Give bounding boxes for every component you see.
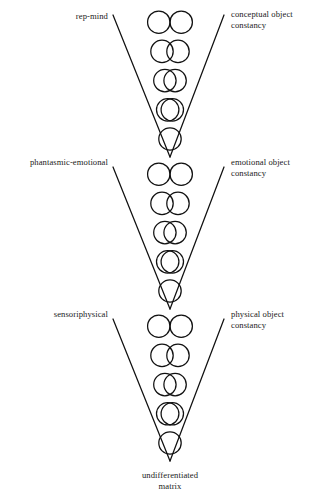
- label-physical-object-constancy: physical object constancy: [231, 309, 326, 330]
- circle-conceptual-row4-right: [161, 99, 183, 121]
- funnel-group-emotional: [113, 163, 224, 309]
- circle-conceptual-row3-right: [164, 69, 186, 91]
- label-rep-mind: rep-mind: [18, 11, 108, 22]
- circle-emotional-row4-left: [157, 251, 179, 273]
- circle-emotional-row1-left: [148, 163, 170, 185]
- circle-physical-row3-left: [154, 373, 176, 395]
- circle-conceptual-row3-left: [154, 69, 176, 91]
- circle-emotional-row4-right: [161, 251, 183, 273]
- label-sensoriphysical: sensoriphysical: [18, 309, 108, 320]
- circle-emotional-row1-right: [170, 163, 192, 185]
- funnel-line-right-emotional: [170, 167, 224, 309]
- funnel-group-physical: [113, 315, 224, 461]
- label-conceptual-object-constancy: conceptual object constancy: [231, 9, 326, 30]
- circle-conceptual-row1-right: [170, 11, 192, 33]
- circle-physical-row1-left: [148, 315, 170, 337]
- label-undifferentiated-matrix: undifferentiated matrix: [108, 470, 232, 491]
- circle-emotional-row2-right: [167, 192, 189, 214]
- funnel-group-conceptual: [113, 11, 224, 157]
- circle-physical-row2-right: [167, 344, 189, 366]
- circle-conceptual-row4-left: [157, 99, 179, 121]
- circle-physical-row1-right: [170, 315, 192, 337]
- funnel-line-left-conceptual: [113, 15, 170, 157]
- funnel-line-right-physical: [170, 319, 224, 461]
- funnel-line-left-emotional: [113, 167, 170, 309]
- circle-emotional-row3-right: [164, 221, 186, 243]
- circle-physical-row3-right: [164, 373, 186, 395]
- object-constancy-diagram: [0, 0, 328, 503]
- circle-emotional-row3-left: [154, 221, 176, 243]
- circle-conceptual-row1-left: [148, 11, 170, 33]
- funnel-line-left-physical: [113, 319, 170, 461]
- circle-physical-row4-left: [157, 403, 179, 425]
- label-emotional-object-constancy: emotional object constancy: [231, 157, 326, 178]
- circle-conceptual-row2-right: [167, 40, 189, 62]
- circle-physical-row4-right: [161, 403, 183, 425]
- diagram-root: rep-mind conceptual object constancy pha…: [0, 0, 328, 503]
- funnel-line-right-conceptual: [170, 15, 224, 157]
- label-phantasmic-emotional: phantasmic-emotional: [4, 157, 108, 168]
